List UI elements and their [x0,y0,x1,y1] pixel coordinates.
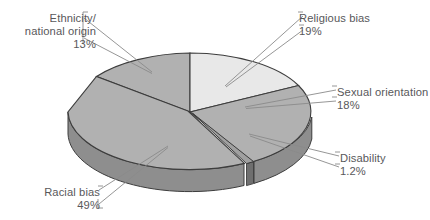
slice-label-sexual-orientation: Sexual orientation 18% [337,86,430,112]
slice-label-religious-bias: Religious bias 19% [299,12,424,38]
slice-label-racial-bias-text: Racial bias [44,186,100,198]
slice-label-sexual-orientation-text: Sexual orientation [337,86,428,98]
slice-label-disability: Disability 1.2% [340,152,426,178]
slice-value-religious-bias: 19% [299,25,424,38]
slice-value-disability: 1.2% [340,165,426,178]
slice-label-ethnicity-line1: Ethnicity/ [50,12,96,24]
slice-value-sexual-orientation: 18% [337,99,430,112]
slice-label-ethnicity-line2: national origin [25,25,96,37]
slice-value-ethnicity: 13% [0,38,96,51]
slice-side-wall-disability [247,162,254,186]
slice-value-racial-bias: 49% [8,199,100,212]
slice-label-racial-bias: Racial bias 49% [8,186,100,212]
slice-label-disability-text: Disability [340,152,386,164]
pie-top-faces [68,53,311,170]
pie-chart-figure: Ethnicity/ national origin 13% Religious… [0,0,430,220]
slice-label-ethnicity-national-origin: Ethnicity/ national origin 13% [0,12,96,52]
slice-label-religious-bias-text: Religious bias [299,12,370,24]
